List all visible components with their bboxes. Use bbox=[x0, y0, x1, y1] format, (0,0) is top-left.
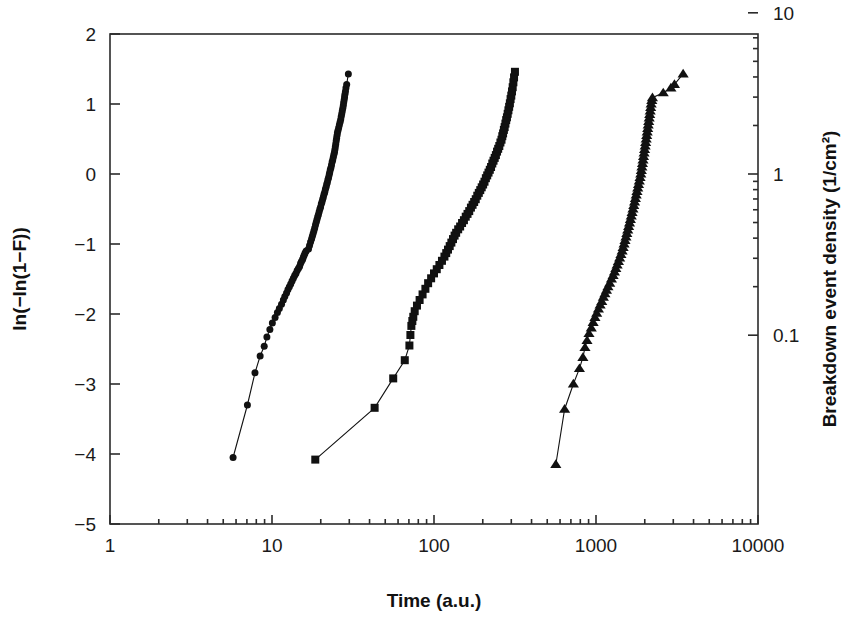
data-point-marker bbox=[251, 369, 258, 376]
x-tick-label: 100 bbox=[418, 535, 450, 556]
data-point-marker bbox=[678, 69, 689, 78]
x-axis-title: Time (a.u.) bbox=[387, 590, 482, 611]
data-point-marker bbox=[345, 70, 352, 77]
data-point-marker bbox=[511, 68, 519, 76]
data-point-marker bbox=[389, 374, 397, 382]
data-series bbox=[311, 68, 519, 464]
y-axis-title: ln(−ln(1−F)) bbox=[9, 227, 30, 330]
series-connector-line bbox=[233, 74, 348, 458]
data-point-marker bbox=[405, 342, 413, 350]
right-tick-label: 10 bbox=[773, 3, 794, 24]
data-point-marker bbox=[577, 352, 588, 361]
data-point-marker bbox=[263, 334, 270, 341]
y-tick-label: 0 bbox=[85, 164, 96, 185]
data-point-marker bbox=[266, 326, 273, 333]
data-point-marker bbox=[257, 353, 264, 360]
data-point-marker bbox=[401, 356, 409, 364]
data-point-marker bbox=[574, 363, 585, 372]
data-point-marker bbox=[311, 456, 319, 464]
y-axis-ticks: 210−1−2−3−4−5 bbox=[74, 24, 120, 535]
data-point-marker bbox=[261, 343, 268, 350]
x-tick-label: 10 bbox=[261, 535, 282, 556]
x-tick-label: 1 bbox=[105, 535, 116, 556]
y-tick-label: −3 bbox=[74, 374, 96, 395]
data-point-marker bbox=[244, 402, 251, 409]
data-series-layer bbox=[230, 68, 689, 468]
x-tick-label: 10000 bbox=[732, 535, 785, 556]
y-tick-label: −2 bbox=[74, 304, 96, 325]
data-point-marker bbox=[406, 331, 414, 339]
data-point-marker bbox=[559, 404, 570, 413]
y-tick-label: 1 bbox=[85, 94, 96, 115]
data-point-marker bbox=[343, 81, 350, 88]
data-point-marker bbox=[568, 379, 579, 388]
right-axis-ticks: 501010.1 bbox=[748, 0, 799, 346]
y-tick-label: −4 bbox=[74, 444, 96, 465]
weibull-plot-figure: 110100100010000 210−1−2−3−4−5 501010.1 T… bbox=[0, 0, 862, 631]
x-tick-label: 1000 bbox=[575, 535, 617, 556]
data-point-marker bbox=[550, 459, 561, 468]
chart-canvas: 110100100010000 210−1−2−3−4−5 501010.1 T… bbox=[0, 0, 862, 631]
right-tick-label: 1 bbox=[773, 164, 784, 185]
data-series bbox=[230, 70, 352, 461]
y-tick-label: −5 bbox=[74, 514, 96, 535]
series-connector-line bbox=[315, 72, 515, 460]
x-axis-ticks: 110100100010000 bbox=[105, 515, 785, 556]
data-point-marker bbox=[230, 454, 237, 461]
right-tick-label: 0.1 bbox=[773, 325, 799, 346]
y-tick-label: 2 bbox=[85, 24, 96, 45]
data-series bbox=[550, 69, 688, 468]
y-tick-label: −1 bbox=[74, 234, 96, 255]
data-point-marker bbox=[371, 404, 379, 412]
right-axis-title: Breakdown event density (1/cm²) bbox=[819, 131, 840, 428]
data-point-marker bbox=[647, 93, 658, 102]
